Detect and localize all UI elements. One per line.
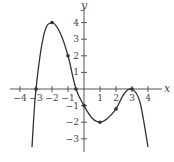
curve <box>32 23 148 148</box>
y-tick-label: 1 <box>73 67 79 77</box>
x-tick-label: 2 <box>113 93 119 103</box>
x-tick-label: −3 <box>29 93 43 103</box>
data-point <box>114 107 118 111</box>
data-point <box>66 54 70 58</box>
x-tick-label: 1 <box>97 93 103 103</box>
data-point <box>34 87 38 91</box>
data-point <box>82 104 86 108</box>
x-tick-label: 3 <box>129 93 135 103</box>
ticks: −4−3−2−11234−3−2−11234 <box>13 18 151 144</box>
function-graph: xy −4−3−2−11234−3−2−11234 <box>0 0 174 162</box>
y-axis-label: y <box>80 0 88 12</box>
axes: xy <box>10 0 171 152</box>
y-tick-label: 3 <box>73 34 79 44</box>
y-tick-label: 2 <box>73 51 79 61</box>
x-tick-label: −2 <box>45 93 58 103</box>
x-tick-label: 4 <box>145 93 151 103</box>
x-axis-label: x <box>164 82 171 95</box>
y-tick-label: −1 <box>66 101 79 111</box>
data-point <box>74 87 78 91</box>
data-point <box>50 21 54 25</box>
y-tick-label: 4 <box>73 18 79 28</box>
data-point <box>98 120 102 124</box>
data-point <box>130 87 134 91</box>
y-tick-label: −2 <box>66 117 79 127</box>
x-tick-label: −4 <box>13 93 27 103</box>
y-tick-label: −3 <box>66 134 80 144</box>
function-curve <box>32 23 148 148</box>
